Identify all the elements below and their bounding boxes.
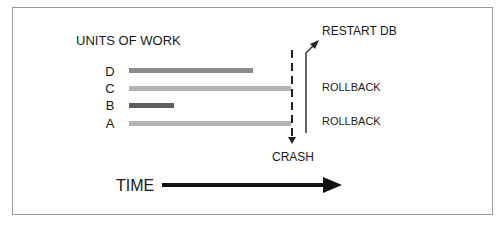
rollback-c-label: ROLLBACK: [322, 82, 381, 93]
diagram-lines: [0, 0, 503, 225]
restart-arrow-icon: [306, 40, 319, 133]
rollback-a-label: ROLLBACK: [322, 116, 381, 127]
time-label: TIME: [116, 178, 154, 194]
crash-label: CRASH: [272, 151, 314, 163]
restart-db-label: RESTART DB: [322, 25, 397, 37]
time-arrow-icon: [162, 177, 342, 193]
crash-arrow-icon: [288, 50, 296, 144]
